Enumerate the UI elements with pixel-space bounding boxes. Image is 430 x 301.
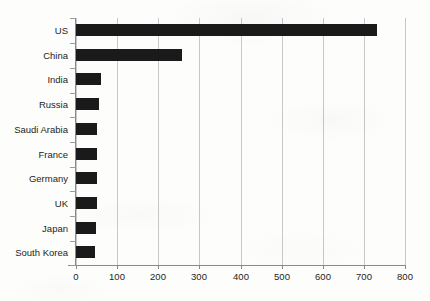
x-axis-tick [364,265,365,269]
gridline-300 [199,18,200,265]
bar-saudi-arabia [76,123,97,135]
y-axis-label-uk: UK [55,199,68,209]
y-axis-label-us: US [55,26,68,36]
y-axis-tick [70,117,76,118]
bar-uk [76,197,97,209]
x-axis-tick-label-400: 400 [221,272,261,282]
gridline-800 [405,18,406,265]
x-axis-tick-label-700: 700 [344,272,384,282]
x-axis-tick-label-600: 600 [303,272,343,282]
y-axis-label-south-korea: South Korea [15,248,68,258]
y-axis-label-russia: Russia [39,100,68,110]
x-axis-tick [282,265,283,269]
gridline-600 [323,18,324,265]
gridline-500 [282,18,283,265]
gridline-700 [364,18,365,265]
bar-china [76,49,182,61]
bar-south-korea [76,246,95,258]
y-axis-tick [70,191,76,192]
y-axis-tick [70,43,76,44]
y-axis-tick [70,241,76,242]
y-axis-label-france: France [38,150,68,160]
x-axis-tick-label-0: 0 [56,272,96,282]
bar-france [76,148,97,160]
y-axis-label-india: India [47,75,68,85]
y-axis-label-japan: Japan [42,224,68,234]
y-axis-label-germany: Germany [29,174,68,184]
x-axis-tick [117,265,118,269]
x-axis-tick-label-200: 200 [138,272,178,282]
gridline-400 [241,18,242,265]
bar-germany [76,172,97,184]
bar-us [76,24,377,36]
y-axis-tick [70,68,76,69]
x-axis-line [68,265,405,266]
x-axis-tick [241,265,242,269]
x-axis-tick-label-800: 800 [385,272,425,282]
y-axis-label-china: China [43,51,68,61]
y-axis-label-saudi-arabia: Saudi Arabia [14,125,68,135]
x-axis-tick [158,265,159,269]
y-axis-tick [70,18,76,19]
y-axis-tick [70,142,76,143]
x-axis-tick-label-300: 300 [179,272,219,282]
bar-russia [76,98,99,110]
x-axis-tick [199,265,200,269]
x-axis-tick [76,265,77,269]
y-axis-tick [70,93,76,94]
x-axis-tick-label-100: 100 [97,272,137,282]
y-axis-tick [70,216,76,217]
x-axis-tick-label-500: 500 [262,272,302,282]
y-axis-tick [70,167,76,168]
x-axis-tick [405,265,406,269]
bar-chart: US China India Russia Saudi Arabia Franc… [0,0,430,301]
bar-india [76,73,101,85]
bar-japan [76,222,96,234]
x-axis-tick [323,265,324,269]
